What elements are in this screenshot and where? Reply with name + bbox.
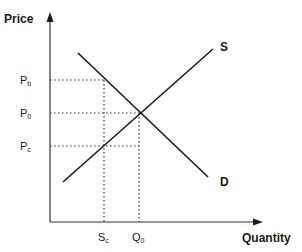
demand-label: D [220,175,229,189]
x-axis-title: Quantity [242,231,291,245]
price-label-pc: Pc [20,140,31,153]
x-axis-arrow-icon [253,219,263,226]
price-label-pb: Pb [20,74,31,87]
price-label-p0: P0 [20,107,31,120]
supply-curve [63,49,213,182]
quantity-label-q0: Q0 [132,231,145,244]
quantity-label-sc: Sc [98,231,109,244]
y-axis-title: Price [4,12,34,26]
supply-demand-diagram: Price Quantity S D Pb P0 Pc Sc Q0 [0,0,302,252]
supply-label: S [220,40,228,54]
y-axis-arrow-icon [47,12,54,22]
